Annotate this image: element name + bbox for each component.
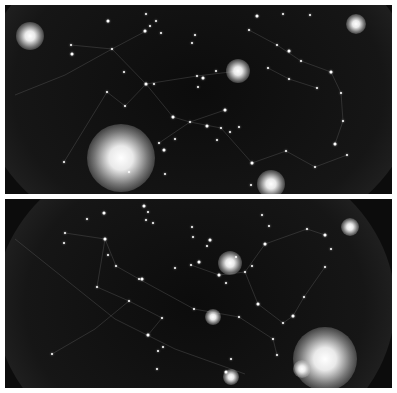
bright-star-glow bbox=[205, 309, 221, 325]
star bbox=[251, 162, 254, 165]
star bbox=[288, 50, 291, 53]
star bbox=[106, 91, 108, 93]
bright-star-glow bbox=[293, 360, 311, 378]
star bbox=[202, 77, 205, 80]
star bbox=[153, 83, 155, 85]
star bbox=[190, 264, 192, 266]
star bbox=[198, 261, 201, 264]
star bbox=[152, 222, 154, 224]
constellation-line bbox=[15, 239, 245, 374]
star bbox=[189, 121, 191, 123]
star bbox=[276, 44, 278, 46]
star bbox=[191, 42, 193, 44]
star bbox=[63, 242, 65, 244]
bright-star-glow bbox=[87, 124, 155, 192]
constellation-line bbox=[71, 45, 238, 84]
star bbox=[197, 86, 199, 88]
bright-star-glow bbox=[257, 170, 285, 194]
star bbox=[144, 30, 147, 33]
bright-star-glow bbox=[16, 22, 44, 50]
star bbox=[334, 143, 337, 146]
star bbox=[346, 154, 348, 156]
star bbox=[324, 234, 327, 237]
star bbox=[225, 371, 228, 374]
star bbox=[107, 20, 110, 23]
star bbox=[209, 239, 212, 242]
star bbox=[63, 161, 65, 163]
star bbox=[163, 149, 166, 152]
star bbox=[218, 274, 221, 277]
star bbox=[111, 48, 113, 50]
star bbox=[123, 71, 125, 73]
star bbox=[224, 109, 227, 112]
constellation-line bbox=[268, 68, 317, 88]
star bbox=[164, 173, 166, 175]
star bbox=[206, 245, 208, 247]
star bbox=[64, 232, 66, 234]
star bbox=[306, 228, 308, 230]
star bbox=[238, 126, 240, 128]
star bbox=[285, 150, 287, 152]
star bbox=[268, 225, 270, 227]
constellation-line bbox=[249, 30, 343, 144]
star bbox=[147, 211, 149, 213]
star bbox=[128, 171, 130, 173]
star bbox=[316, 87, 318, 89]
star bbox=[342, 120, 344, 122]
star bbox=[174, 267, 176, 269]
star bbox=[194, 34, 196, 36]
star bbox=[145, 83, 148, 86]
star bbox=[124, 105, 126, 107]
star bbox=[235, 256, 237, 258]
constellation-line bbox=[245, 267, 325, 323]
star bbox=[192, 236, 194, 238]
star bbox=[103, 212, 106, 215]
star bbox=[300, 60, 302, 62]
star bbox=[96, 286, 98, 288]
star bbox=[340, 92, 342, 94]
star bbox=[70, 44, 72, 46]
star bbox=[71, 53, 74, 56]
star bbox=[324, 266, 326, 268]
star bbox=[216, 139, 218, 141]
star bbox=[143, 205, 146, 208]
constellation-line bbox=[191, 229, 325, 275]
star bbox=[230, 358, 232, 360]
star bbox=[282, 322, 284, 324]
star-map-panel-bottom bbox=[5, 199, 392, 388]
constellation-line bbox=[159, 122, 347, 167]
star bbox=[51, 353, 53, 355]
star bbox=[292, 315, 295, 318]
star bbox=[330, 248, 332, 250]
star bbox=[303, 296, 305, 298]
star bbox=[215, 70, 217, 72]
star bbox=[264, 243, 267, 246]
constellation-line bbox=[125, 84, 225, 122]
star bbox=[147, 334, 150, 337]
star bbox=[251, 265, 253, 267]
star bbox=[225, 282, 227, 284]
star bbox=[145, 13, 147, 15]
constellation-line bbox=[52, 301, 129, 354]
star bbox=[157, 350, 159, 352]
star bbox=[238, 316, 240, 318]
star bbox=[261, 214, 263, 216]
star bbox=[267, 67, 269, 69]
star bbox=[141, 278, 144, 281]
star bbox=[156, 368, 158, 370]
star bbox=[272, 338, 274, 340]
star bbox=[172, 116, 175, 119]
bright-star-glow bbox=[341, 218, 359, 236]
star bbox=[86, 218, 88, 220]
star bbox=[128, 300, 130, 302]
constellation-line bbox=[65, 233, 194, 309]
star bbox=[314, 166, 316, 168]
star bbox=[288, 78, 290, 80]
star bbox=[206, 125, 209, 128]
star bbox=[193, 308, 195, 310]
star bbox=[244, 271, 246, 273]
star bbox=[257, 303, 260, 306]
star bbox=[149, 25, 151, 27]
star bbox=[256, 15, 259, 18]
star bbox=[196, 75, 198, 77]
